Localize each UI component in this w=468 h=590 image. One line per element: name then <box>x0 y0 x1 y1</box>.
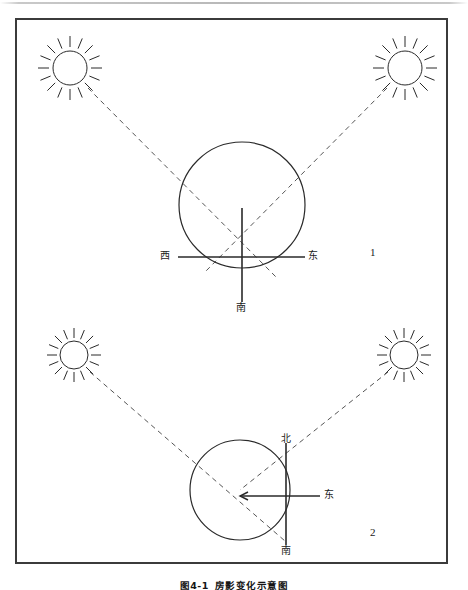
panel-2-sun-morning-ray <box>55 336 62 343</box>
panel-2-sun-afternoon-ray <box>385 336 392 343</box>
panel-2-sun-morning-ray <box>49 362 58 366</box>
panel-2-label-east: 东 <box>324 490 334 500</box>
panel-2-ray-from-morning-sun <box>90 372 285 541</box>
panel-1-sun-afternoon-ray <box>420 83 428 91</box>
panel-1-sun-morning-ray <box>58 87 62 97</box>
panel-2-sun-afternoon-ray <box>416 336 423 343</box>
panel-2-sun-morning-ray <box>64 330 68 339</box>
panel-2-sun-afternoon-ray <box>411 330 415 339</box>
figure-caption-number: 图4-1 <box>180 580 209 590</box>
panel-1-ray-from-morning-sun <box>88 88 276 277</box>
panel-2-sun-afternoon-ray <box>379 362 388 366</box>
panel-2-sun-morning-ray <box>86 367 93 374</box>
panel-2-sun-morning-ray <box>64 371 68 380</box>
panel-1-sun-morning-ray <box>85 83 93 91</box>
panel-2-sun-morning-disc <box>60 341 88 369</box>
panel-2-label-south: 南 <box>281 546 291 556</box>
panel-2-group <box>47 328 431 545</box>
panel-2-number: 2 <box>370 527 376 538</box>
panel-1-sun-afternoon-ray <box>375 56 385 60</box>
panel-1-sun-afternoon-ray <box>413 87 417 97</box>
panel-2-label-north: 北 <box>281 434 291 444</box>
panel-1-sun-afternoon-ray <box>420 45 428 53</box>
panel-2-sun-morning-ray <box>55 367 62 374</box>
figure-caption: 图4-1房影变化示意图 <box>0 578 468 590</box>
diagram-artwork <box>0 0 468 590</box>
panel-1-sun-morning-ray <box>47 45 55 53</box>
panel-1-label-west: 西 <box>160 251 170 261</box>
panel-1-group <box>38 36 437 302</box>
panel-1-sun-morning-ray <box>89 56 99 60</box>
panel-1-sun-morning-ray <box>78 87 82 97</box>
panel-2-sun-morning-ray <box>81 371 85 380</box>
panel-1-sun-afternoon-ray <box>424 56 434 60</box>
panel-2-sun-afternoon-ray <box>420 345 429 349</box>
panel-2-sun-morning-ray <box>90 362 99 366</box>
panel-1-sun-afternoon-ray <box>382 83 390 91</box>
panel-1-sun-afternoon-ray <box>393 38 397 48</box>
panel-1-label-south: 南 <box>236 303 246 313</box>
panel-2-sun-afternoon-ray <box>411 371 415 380</box>
figure-caption-text: 房影变化示意图 <box>215 580 289 590</box>
panel-1-label-east: 东 <box>308 251 318 261</box>
panel-2-sun-afternoon-disc <box>390 341 418 369</box>
panel-1-sun-morning-ray <box>58 38 62 48</box>
panel-2-sun-morning-ray <box>86 336 93 343</box>
panel-1-sun-morning-ray <box>47 83 55 91</box>
panel-2-ray-from-afternoon-sun <box>240 372 388 490</box>
panel-2-sun-afternoon-ray <box>394 330 398 339</box>
panel-1-sun-afternoon-ray <box>393 87 397 97</box>
panel-2-sun-afternoon-ray <box>420 362 429 366</box>
panel-1-sun-afternoon-ray <box>375 76 385 80</box>
panel-2-sun-morning-ray <box>90 345 99 349</box>
panel-2-sun-afternoon-ray <box>394 371 398 380</box>
panel-2-sun-morning-ray <box>81 330 85 339</box>
panel-1-sun-morning-ray <box>78 38 82 48</box>
panel-1-sun-morning-icon <box>38 36 102 100</box>
panel-1-sun-afternoon-icon <box>373 36 437 100</box>
panel-1-number: 1 <box>370 247 376 258</box>
panel-1-ray-from-afternoon-sun <box>205 88 387 272</box>
panel-1-sun-morning-ray <box>85 45 93 53</box>
panel-2-sun-afternoon-ray <box>379 345 388 349</box>
panel-1-sun-afternoon-disc <box>388 51 422 85</box>
panel-1-sun-morning-ray <box>89 76 99 80</box>
panel-1-sun-afternoon-ray <box>413 38 417 48</box>
panel-1-sun-morning-ray <box>40 76 50 80</box>
panel-1-sun-morning-ray <box>40 56 50 60</box>
figure-page: 西东南1北东南2 图4-1房影变化示意图 <box>0 0 468 590</box>
panel-1-sun-afternoon-ray <box>424 76 434 80</box>
panel-1-sun-morning-disc <box>53 51 87 85</box>
panel-2-sun-morning-ray <box>49 345 58 349</box>
panel-1-sun-afternoon-ray <box>382 45 390 53</box>
panel-2-sun-afternoon-ray <box>416 367 423 374</box>
